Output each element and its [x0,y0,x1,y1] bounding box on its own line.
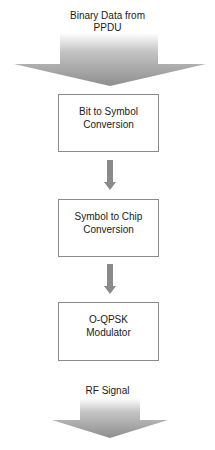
step-label: Bit to Symbol [59,105,158,118]
step-label: Symbol to Chip [59,210,158,223]
arrow-down-icon [104,264,116,294]
arrow-down-icon [104,160,116,190]
input-label: Binary Data from PPDU [40,10,175,34]
step-bit-to-symbol: Bit to Symbol Conversion [58,94,159,152]
output-arrow-icon [52,398,168,438]
step-label: Conversion [59,118,158,131]
step-oqpsk-modulator: O-QPSK Modulator [58,302,159,361]
input-arrow-icon [14,33,206,86]
step-symbol-to-chip: Symbol to Chip Conversion [58,199,159,257]
input-label-line2: PPDU [40,22,175,34]
step-label: Modulator [59,326,158,339]
input-label-line1: Binary Data from [40,10,175,22]
step-label: Conversion [59,223,158,236]
output-label: RF Signal [50,385,165,397]
step-label: O-QPSK [59,313,158,326]
